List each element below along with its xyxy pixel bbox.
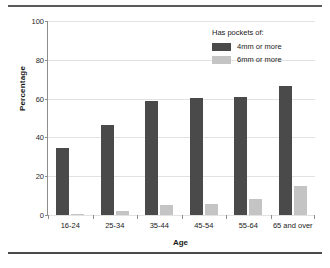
- legend-swatch-4mm: [212, 43, 231, 51]
- x-axis-title: Age: [47, 238, 314, 247]
- bar: [294, 186, 307, 215]
- chart-legend: Has pockets of: 4mm or more 6mm or more: [212, 28, 282, 68]
- y-axis-title: Percentage: [18, 43, 27, 135]
- plot-wrapper: Percentage 020406080100 16-2425-3435-444…: [0, 0, 330, 268]
- legend-label-6mm: 6mm or more: [237, 55, 282, 64]
- legend-swatch-6mm: [212, 56, 231, 64]
- y-tick-label: 40: [36, 133, 44, 142]
- bar-group: 16-24: [48, 21, 93, 215]
- y-tick-label: 80: [36, 55, 44, 64]
- bar: [279, 86, 292, 215]
- bar: [249, 199, 262, 215]
- x-tick-label: 55-64: [239, 221, 258, 230]
- x-tick-mark: [93, 215, 94, 219]
- legend-item-4mm: 4mm or more: [212, 42, 282, 51]
- x-tick-label: 35-44: [150, 221, 169, 230]
- y-tick-label: 60: [36, 94, 44, 103]
- x-tick-mark: [137, 215, 138, 219]
- bar: [160, 205, 173, 215]
- x-tick-mark: [226, 215, 227, 219]
- bar: [71, 214, 84, 215]
- bar: [205, 204, 218, 215]
- legend-label-4mm: 4mm or more: [237, 42, 282, 51]
- bar: [234, 97, 247, 215]
- bar-group: 35-44: [137, 21, 182, 215]
- bar: [56, 148, 69, 215]
- x-tick-mark: [271, 215, 272, 219]
- bar: [116, 211, 129, 215]
- bar: [190, 98, 203, 215]
- x-tick-mark: [48, 215, 49, 219]
- x-tick-label: 45-54: [194, 221, 213, 230]
- x-tick-mark: [182, 215, 183, 219]
- bar-group: 25-34: [93, 21, 138, 215]
- x-tick-label: 65 and over: [273, 221, 313, 230]
- x-tick-label: 25-34: [105, 221, 124, 230]
- y-tick-label: 0: [40, 211, 44, 220]
- x-tick-mark: [314, 215, 315, 219]
- x-tick-label: 16-24: [61, 221, 80, 230]
- y-tick-label: 20: [36, 172, 44, 181]
- bar: [101, 125, 114, 215]
- chart-figure: Percentage 020406080100 16-2425-3435-444…: [0, 0, 330, 268]
- legend-item-6mm: 6mm or more: [212, 55, 282, 64]
- bar: [145, 101, 158, 215]
- legend-title: Has pockets of:: [212, 28, 282, 37]
- y-tick-label: 100: [31, 17, 44, 26]
